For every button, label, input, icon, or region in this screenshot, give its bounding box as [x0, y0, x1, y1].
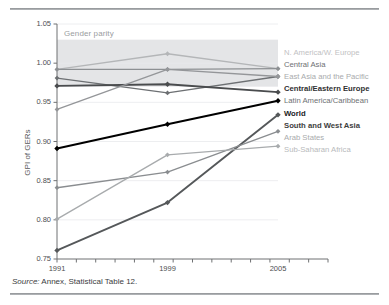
data-point — [276, 144, 281, 149]
data-point — [54, 248, 59, 253]
y-tick-label: 0.80 — [25, 216, 51, 223]
x-tick-label: 2005 — [261, 265, 295, 273]
legend-item: South and West Asia — [284, 121, 360, 130]
legend-item: Latin America/Caribbean — [284, 96, 368, 105]
data-point — [275, 89, 280, 94]
y-tick-label: 0.75 — [25, 255, 51, 262]
y-tick-label: 0.90 — [25, 138, 51, 145]
x-tick-label: 1991 — [40, 265, 74, 273]
data-point — [276, 129, 281, 134]
series-line — [57, 131, 278, 187]
source-text: Annex, Statistical Table 12. — [40, 277, 138, 286]
legend-item: East Asia and the Pacific — [284, 72, 369, 81]
x-tick-label: 1999 — [151, 265, 185, 273]
legend-item: Sub-Saharan Africa — [284, 145, 351, 154]
data-point — [165, 91, 170, 96]
legend-item: Central Asia — [284, 60, 325, 69]
figure-container: GPI of GERs 0.750.800.850.900.951.001.05… — [0, 0, 389, 305]
source-prefix: Source: — [12, 277, 40, 286]
legend-item: World — [284, 109, 306, 118]
chart-plot-area: GPI of GERs 0.750.800.850.900.951.001.05… — [0, 0, 389, 305]
legend-item: Central/Eastern Europe — [284, 84, 369, 93]
y-tick-label: 0.85 — [25, 177, 51, 184]
legend-item: Arab States — [284, 133, 324, 142]
y-tick-label: 1.00 — [25, 59, 51, 66]
legend-item: N. America/W. Europe — [284, 48, 360, 57]
gender-parity-label: Gender parity — [64, 29, 114, 38]
y-axis-title: GPI of GERs — [23, 108, 32, 198]
source-note: Source: Annex, Statistical Table 12. — [12, 277, 137, 286]
y-tick-label: 1.05 — [25, 20, 51, 27]
data-point — [55, 185, 60, 190]
y-tick-label: 0.95 — [25, 98, 51, 105]
data-point — [55, 107, 60, 112]
data-point — [165, 170, 170, 175]
data-point — [54, 146, 59, 151]
data-point — [165, 122, 170, 127]
